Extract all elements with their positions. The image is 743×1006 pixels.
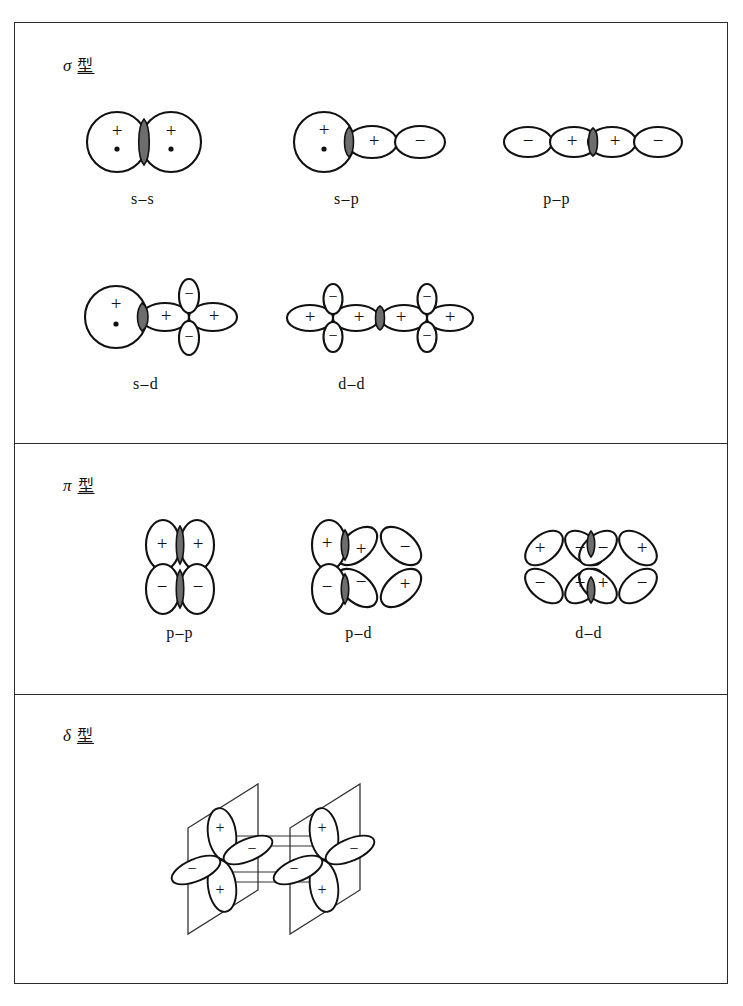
figure-sigma-s-s: + + xyxy=(82,106,207,178)
sign-d1-right: + xyxy=(354,306,365,327)
sign-d1-front: − xyxy=(187,860,196,877)
overlap-region-bottom xyxy=(587,577,595,603)
sign-outer-right: − xyxy=(653,130,664,151)
caption-pi-d-d: d–d xyxy=(575,624,603,642)
sign-right: + xyxy=(166,120,177,141)
sign-d-lower-left: − xyxy=(356,571,367,592)
delta-symbol: δ xyxy=(63,726,77,745)
figure-pi-p-p: + + − − xyxy=(132,519,228,615)
overlap-region xyxy=(139,119,150,165)
orbital-overlap-figure: σ型 + + s–s + + − s–p xyxy=(0,0,743,1006)
sigma-type-word: 型 xyxy=(77,56,94,75)
nucleus-dot xyxy=(321,146,326,151)
sign-d1-bottom: + xyxy=(215,881,224,898)
sign-d1-bottom: − xyxy=(328,327,337,344)
sign-p1-bottom: − xyxy=(157,576,168,597)
sign-d1-lower-right: + xyxy=(575,572,586,593)
sign-d1-lower-left: − xyxy=(535,572,546,593)
sign-d1-top: + xyxy=(215,819,224,836)
sign-d2-left: + xyxy=(396,306,407,327)
sign-s: + xyxy=(319,119,330,140)
delta-type-word: 型 xyxy=(77,726,94,745)
sign-d1-top: − xyxy=(328,288,337,305)
sign-d-lower-right: + xyxy=(400,573,411,594)
sign-d-left: + xyxy=(161,305,172,326)
sign-p-top: + xyxy=(322,532,333,553)
sign-d1-back: − xyxy=(247,840,256,857)
overlap-region xyxy=(138,303,149,331)
pi-symbol: π xyxy=(63,476,78,495)
sign-p2-bottom: − xyxy=(193,576,204,597)
section-title-delta: δ型 xyxy=(63,722,94,746)
sign-d-upper-left: + xyxy=(356,538,367,559)
caption-sigma-s-p: s–p xyxy=(334,190,360,208)
section-title-sigma: σ型 xyxy=(63,52,94,76)
nucleus-dot-right xyxy=(168,146,173,151)
sign-d2-lower-right: − xyxy=(637,572,648,593)
overlap-region xyxy=(376,306,385,330)
sign-d2-lower-left: + xyxy=(598,572,609,593)
figure-sigma-s-p: + + − xyxy=(292,106,437,178)
overlap-region xyxy=(345,127,354,157)
figure-sigma-s-d: + + − − + xyxy=(80,279,250,355)
overlap-region-bottom xyxy=(176,570,184,608)
sign-outer-left: − xyxy=(523,130,534,151)
overlap-region-top xyxy=(176,526,184,564)
sign-d-upper-right: − xyxy=(400,536,411,557)
sign-p1-top: + xyxy=(157,533,168,554)
sign-inner-right: + xyxy=(610,130,621,151)
sign-s: + xyxy=(111,293,122,314)
figure-pi-d-d: + − − + − + + − xyxy=(516,521,666,613)
sign-d1-upper-right: − xyxy=(575,537,586,558)
figure-sigma-p-p: − + + − xyxy=(503,119,683,165)
sign-p-bottom: − xyxy=(322,576,333,597)
sign-d1-left: + xyxy=(305,306,316,327)
figure-sigma-d-d: + − − + + − − + xyxy=(285,283,475,353)
sign-p2-top: + xyxy=(193,533,204,554)
figure-pi-p-d: + − + − − + xyxy=(305,519,435,615)
caption-sigma-s-s: s–s xyxy=(131,190,155,208)
overlap-region xyxy=(589,128,598,156)
sign-d2-top: + xyxy=(317,819,326,836)
caption-sigma-s-d: s–d xyxy=(133,375,159,393)
sigma-symbol: σ xyxy=(63,56,77,75)
overlap-region-top xyxy=(341,530,349,560)
sign-d1-upper-left: + xyxy=(535,537,546,558)
figure-delta-d-d: + + − − + + − − xyxy=(186,772,476,932)
sign-d2-top: − xyxy=(422,288,431,305)
caption-sigma-p-p: p–p xyxy=(543,190,571,208)
section-divider-sigma-pi xyxy=(14,443,728,444)
section-divider-pi-delta xyxy=(14,694,728,695)
sign-d2-back: − xyxy=(349,840,358,857)
sign-d2-right: + xyxy=(445,306,456,327)
sign-d2-front: − xyxy=(289,860,298,877)
section-title-pi: π型 xyxy=(63,472,95,496)
sign-p-inner: + xyxy=(369,130,380,151)
caption-sigma-d-d: d–d xyxy=(338,375,366,393)
sign-d-bottom: − xyxy=(184,328,193,345)
sign-left: + xyxy=(112,120,123,141)
sign-p-outer: − xyxy=(415,130,426,151)
overlap-region-bottom xyxy=(341,574,349,604)
sign-inner-left: + xyxy=(567,130,578,151)
nucleus-dot xyxy=(113,321,118,326)
sign-d2-bottom: + xyxy=(317,881,326,898)
sign-d2-bottom: − xyxy=(422,327,431,344)
nucleus-dot-left xyxy=(114,146,119,151)
caption-pi-p-d: p–d xyxy=(345,624,373,642)
pi-type-word: 型 xyxy=(78,476,95,495)
caption-pi-p-p: p–p xyxy=(166,624,194,642)
sign-d-top: − xyxy=(184,285,193,302)
sign-d-right: + xyxy=(209,305,220,326)
sign-d2-upper-left: − xyxy=(598,537,609,558)
overlap-region-top xyxy=(587,531,595,557)
sign-d2-upper-right: + xyxy=(637,537,648,558)
